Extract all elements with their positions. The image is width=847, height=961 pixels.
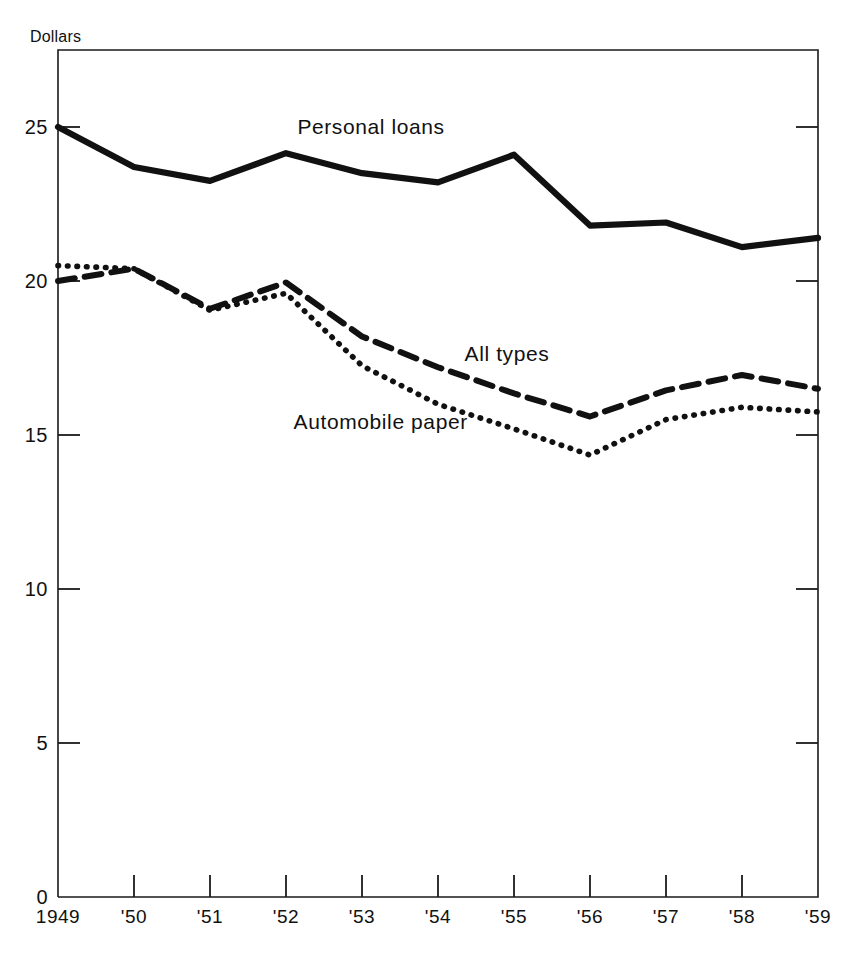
y-tick-label: 20 bbox=[6, 270, 48, 293]
x-tick-label: '53 bbox=[349, 906, 375, 928]
axis-ticks bbox=[58, 127, 818, 897]
data-series-group bbox=[58, 127, 818, 455]
x-tick-label: '54 bbox=[425, 906, 451, 928]
x-tick-label: '58 bbox=[729, 906, 755, 928]
x-tick-label: 1949 bbox=[36, 906, 80, 928]
series-label-automobile-paper: Automobile paper bbox=[294, 410, 468, 434]
series-line-personal-loans bbox=[58, 127, 818, 247]
series-line-all-types bbox=[58, 269, 818, 417]
chart-plot-area bbox=[0, 0, 847, 961]
x-tick-label: '51 bbox=[197, 906, 223, 928]
series-label-all-types: All types bbox=[465, 342, 550, 366]
x-tick-label: '55 bbox=[501, 906, 527, 928]
chart-container: Dollars 2520151050 1949'50'51'52'53'54'5… bbox=[0, 0, 847, 961]
x-tick-label: '59 bbox=[805, 906, 831, 928]
y-tick-label: 5 bbox=[6, 732, 48, 755]
x-tick-label: '57 bbox=[653, 906, 679, 928]
x-tick-label: '50 bbox=[121, 906, 147, 928]
x-tick-label: '56 bbox=[577, 906, 603, 928]
y-tick-label: 15 bbox=[6, 424, 48, 447]
x-tick-label: '52 bbox=[273, 906, 299, 928]
y-tick-label: 10 bbox=[6, 578, 48, 601]
y-tick-label: 25 bbox=[6, 116, 48, 139]
series-label-personal-loans: Personal loans bbox=[297, 115, 444, 139]
